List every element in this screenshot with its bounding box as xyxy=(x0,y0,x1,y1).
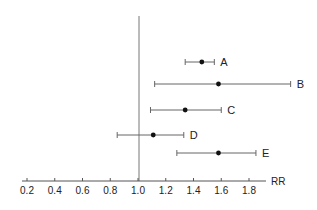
estimate-row-e: E xyxy=(177,147,269,159)
x-tick-label: 1.6 xyxy=(214,185,228,196)
x-tick-label: 0.2 xyxy=(20,185,34,196)
point-estimate xyxy=(216,82,221,87)
point-estimate xyxy=(216,151,221,156)
row-label: C xyxy=(227,104,235,116)
estimate-row-b: B xyxy=(155,78,304,90)
x-tick-label: 0.8 xyxy=(103,185,117,196)
estimate-row-d: D xyxy=(117,129,198,141)
row-label: E xyxy=(262,147,269,159)
forest-plot: 0.20.40.60.81.01.21.41.61.8 RR ABCDE xyxy=(0,0,317,210)
x-tick-label: 1.8 xyxy=(242,185,256,196)
x-axis-label: RR xyxy=(271,176,285,187)
row-label: B xyxy=(297,78,304,90)
x-tick-label: 1.4 xyxy=(187,185,201,196)
estimate-rows: ABCDE xyxy=(117,56,304,159)
point-estimate xyxy=(183,108,188,113)
estimate-row-a: A xyxy=(185,56,228,68)
x-tick-label: 0.6 xyxy=(76,185,90,196)
x-tick-label: 1.0 xyxy=(131,185,145,196)
point-estimate xyxy=(151,133,156,138)
x-tick-label: 1.2 xyxy=(159,185,173,196)
estimate-row-c: C xyxy=(150,104,235,116)
point-estimate xyxy=(199,60,204,65)
x-tick-label: 0.4 xyxy=(48,185,62,196)
row-label: A xyxy=(220,56,228,68)
x-axis: 0.20.40.60.81.01.21.41.61.8 RR xyxy=(20,176,285,196)
row-label: D xyxy=(190,129,198,141)
